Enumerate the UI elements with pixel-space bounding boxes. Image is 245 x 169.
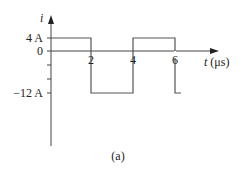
figure-caption: (a) — [111, 149, 124, 163]
x-tick-label-2: 2 — [88, 53, 94, 67]
y-tick-label-4a: 4 A — [26, 31, 43, 45]
x-axis-arrow-icon — [210, 48, 219, 54]
y-axis-label: i — [40, 11, 43, 25]
waveform-chart: i 4 A 0 −12 A 2 4 6 t (μs) (a) — [0, 0, 245, 169]
y-ticks — [47, 38, 51, 93]
x-tick-label-4: 4 — [130, 53, 136, 67]
x-axis-unit: (μs) — [207, 55, 229, 69]
x-axis-label: t (μs) — [204, 55, 229, 69]
y-axis-arrow-icon — [48, 15, 54, 24]
y-tick-label-neg12a: −12 A — [13, 86, 43, 100]
y-tick-label-0: 0 — [37, 44, 43, 58]
x-tick-label-6: 6 — [172, 53, 178, 67]
current-waveform — [51, 38, 181, 93]
